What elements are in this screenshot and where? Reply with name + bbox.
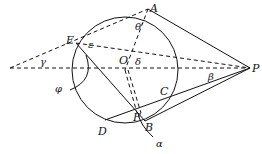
- dashed-line-OF-1: [125, 70, 137, 113]
- tangent-line-PA: [148, 9, 250, 68]
- angle-label-phi: φ: [55, 83, 62, 94]
- angle-label-beta: β: [207, 71, 214, 82]
- line-EB: [76, 43, 145, 121]
- angle-label-gamma: γ: [40, 56, 46, 67]
- angle-label-delta: δ: [135, 56, 141, 67]
- point-label-P: P: [251, 62, 260, 75]
- point-label-F: F: [132, 111, 141, 124]
- dashed-line-EP: [76, 43, 250, 68]
- point-label-O: O: [119, 54, 128, 67]
- dashed-line-OF-2: [128, 70, 141, 113]
- point-label-A: A: [149, 2, 158, 15]
- point-label-B: B: [144, 121, 153, 134]
- geometry-diagram: A E O P C D F B γ ε θ′ δ β φ α: [0, 0, 262, 154]
- angle-label-epsilon: ε: [88, 39, 93, 50]
- angle-label-alpha: α: [156, 138, 163, 149]
- point-label-C: C: [160, 85, 169, 98]
- point-label-E: E: [65, 34, 74, 47]
- point-label-D: D: [97, 125, 107, 138]
- angle-label-theta-prime: θ′: [135, 21, 144, 32]
